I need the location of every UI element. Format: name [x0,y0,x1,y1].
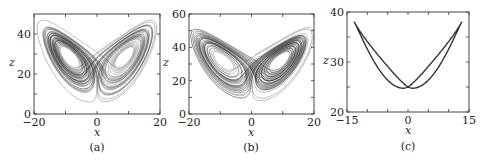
figure: −2002002040 x z (a) −200200204060 x z (b… [0,0,486,160]
trajectory-path [37,20,157,102]
axis-ticks-a: −2002002040 [17,14,167,129]
y-tick-label: 20 [17,68,31,81]
caption-b: (b) [243,141,259,154]
y-tick-label: 40 [330,6,344,19]
attractor-trajectory-b [191,27,314,100]
y-tick-label: 40 [17,28,31,41]
trajectory-path [191,27,314,100]
y-tick-label: 20 [172,75,186,88]
caption-c: (c) [401,140,416,153]
x-tick-label: 20 [153,116,167,129]
caption-a: (a) [89,141,104,154]
x-tick-label: 15 [462,114,476,127]
y-axis-label-b: z [162,56,169,69]
y-tick-label: 0 [24,108,31,121]
y-tick-label: 40 [172,41,186,54]
panel-b: −200200204060 x z (b) [162,8,321,154]
x-axis-label-b: x [248,126,255,139]
attractor-trajectory-a [37,20,157,102]
y-tick-label: 30 [330,56,344,69]
x-axis-label-a: x [94,126,101,139]
panel-a: −2002002040 x z (a) [8,14,167,154]
x-tick-label: 20 [307,116,321,129]
axis-ticks-c: −15015203040 [330,6,476,127]
panel-c: −15015203040 x z (c) [322,6,476,153]
y-axis-label-c: z [322,54,329,67]
plot-frame-c [347,12,469,112]
y-axis-label-a: z [8,56,15,69]
y-tick-label: 0 [179,108,186,121]
x-axis-label-c: x [405,124,412,137]
y-tick-label: 20 [330,106,344,119]
y-tick-label: 60 [172,8,186,21]
limit-cycle-curve-c [354,22,461,88]
figure-eight-path [354,22,461,88]
